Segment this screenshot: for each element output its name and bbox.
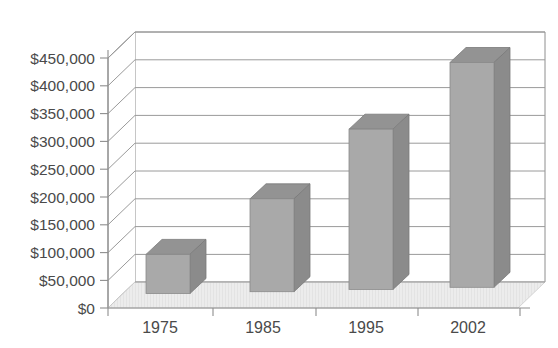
- chart-canvas: $450,000 $400,000 $350,000 $300,000 $250…: [0, 0, 558, 348]
- y-axis: [100, 50, 108, 308]
- y-tick-label: $350,000: [30, 105, 95, 122]
- y-tick-label: $250,000: [30, 161, 95, 178]
- x-tick-label: 2002: [450, 319, 486, 336]
- y-tick-label: $300,000: [30, 133, 95, 150]
- y-tick-label: $0: [78, 300, 96, 317]
- bar-1975[interactable]: [146, 239, 206, 293]
- bar-2002[interactable]: [450, 48, 510, 288]
- bar-1995[interactable]: [349, 114, 409, 289]
- y-tick-label: $100,000: [30, 244, 95, 261]
- x-axis-tick-labels: 1975 1985 1995 2002: [142, 319, 486, 336]
- x-axis: [108, 308, 530, 316]
- y-tick-label: $400,000: [30, 77, 95, 94]
- y-tick-label: $150,000: [30, 216, 95, 233]
- x-tick-label: 1975: [142, 319, 178, 336]
- bar-1985[interactable]: [250, 184, 310, 292]
- y-tick-label: $50,000: [39, 272, 95, 289]
- x-tick-label: 1985: [245, 319, 281, 336]
- x-tick-label: 1995: [348, 319, 384, 336]
- y-axis-tick-labels: $450,000 $400,000 $350,000 $300,000 $250…: [30, 50, 95, 317]
- y-tick-label: $450,000: [30, 50, 95, 67]
- bar-chart: $450,000 $400,000 $350,000 $300,000 $250…: [0, 0, 558, 348]
- y-tick-label: $200,000: [30, 189, 95, 206]
